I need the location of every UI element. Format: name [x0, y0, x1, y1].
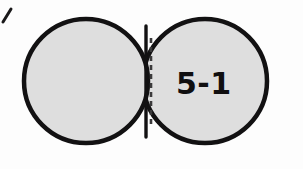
figure-root: 5-1 [0, 0, 303, 169]
disc-label: 5-1 [176, 66, 232, 101]
twin-disc-stack-diagram: 5-1 [0, 0, 303, 169]
left-disc [24, 19, 148, 143]
